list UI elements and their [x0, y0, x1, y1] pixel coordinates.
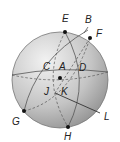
- sphere-diagram: E B F C A D J K G H L: [0, 0, 120, 142]
- point-H: [66, 125, 70, 129]
- label-B: B: [85, 14, 92, 25]
- label-A: A: [58, 61, 66, 72]
- label-H: H: [64, 131, 72, 142]
- label-L: L: [104, 111, 110, 122]
- point-G: [22, 109, 26, 113]
- label-G: G: [12, 116, 20, 127]
- label-E: E: [62, 13, 69, 24]
- label-J: J: [43, 86, 50, 97]
- point-E: [63, 30, 67, 34]
- point-F: [88, 36, 92, 40]
- label-D: D: [79, 62, 86, 73]
- label-F: F: [96, 28, 103, 39]
- point-center: [58, 76, 62, 80]
- label-C: C: [43, 61, 51, 72]
